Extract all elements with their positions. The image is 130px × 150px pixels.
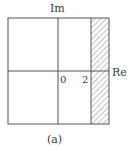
origin-label: 0 <box>60 75 66 85</box>
real-axis-label: Re <box>112 67 127 78</box>
complex-plane-figure: Im Re 0 2 (a) <box>0 0 130 150</box>
imag-axis-label: Im <box>50 3 65 14</box>
tick-label-2: 2 <box>82 75 88 85</box>
figure-caption: (a) <box>47 134 62 145</box>
